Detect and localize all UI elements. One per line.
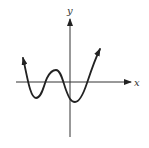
y-axis-label: y	[66, 5, 73, 16]
polynomial-curve	[23, 49, 100, 102]
polynomial-graph: y x	[0, 0, 149, 148]
x-axis-label: x	[134, 77, 140, 88]
